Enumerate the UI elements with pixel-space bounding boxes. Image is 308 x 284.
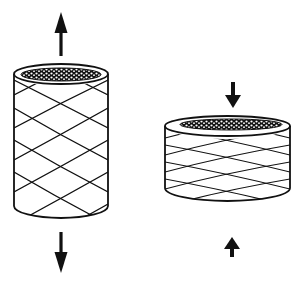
sleeve-body-outline xyxy=(165,126,290,201)
compressed-sleeve xyxy=(165,82,290,257)
sleeve-body-outline xyxy=(14,74,108,218)
extended-sleeve xyxy=(14,12,108,273)
arrow-down-icon xyxy=(225,82,241,108)
arrow-up-icon xyxy=(55,12,68,56)
arrow-up-icon xyxy=(224,237,240,257)
braid-lines xyxy=(14,55,108,256)
arrow-down-icon xyxy=(55,232,68,273)
sleeve-mesh-opening xyxy=(21,68,101,81)
braided-sleeve-diagram: Braided tubular sleeve under axial tensi… xyxy=(0,0,308,284)
sleeve-mesh-opening xyxy=(180,119,282,130)
